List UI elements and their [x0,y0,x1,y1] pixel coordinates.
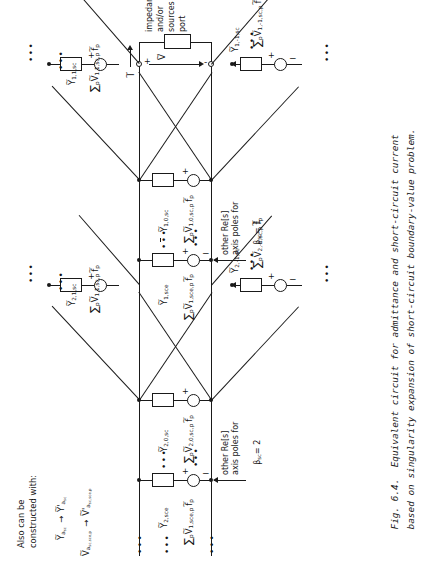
sec1-right-admittance-box [240,57,262,71]
sec1-entire-admittance-box [152,253,174,267]
port-annotation-line1: impedances [144,0,155,32]
port-current-label: ∼I [127,73,136,76]
sec2-center-node-right [209,398,213,402]
port-annotation-line4: port [177,16,188,32]
sec1-left-source-label: ∑p∼V1,1,sc,p∼fp [90,44,101,92]
port-top-wire [139,42,165,43]
sec2-center-admittance-box [152,393,174,407]
sec2-right-admittance-box [240,278,262,292]
sec1-entire-source-circle [187,254,200,267]
sec2-poles-note-line2: axis poles for [230,422,241,475]
sec1-center-rung-wire [139,180,212,181]
sec2-left-admittance-label: ∼Y2,1,sc [68,283,78,306]
sec1-center-admittance-box [152,173,174,187]
port-plus-sign: + [144,58,151,66]
sec1-poles-note-line2: axis poles for [230,202,241,255]
sec1-entire-plus: + [182,248,189,256]
bottom-ellipsis-left-bus: ••• [136,534,145,554]
sec2-left-ellipsis-2: ••• [57,271,66,291]
sec1-entire-ellipsis-src: ••• [192,227,201,247]
sec1-right-source-label: ∑p∼V1,-1,sc,p∼fp [253,0,264,47]
sec1-entire-node-left [137,258,141,262]
port-annotation-line2: and/or [155,6,166,32]
sec2-left-ellipsis: ••• [27,263,36,283]
sec1-poles-arrowhead [213,257,218,263]
sec1-center-node-left [137,178,141,182]
sec1-left-branch-node [47,62,51,66]
sec2-left-diagonal-lower [52,306,140,400]
sec2-entire-node-left [137,478,141,482]
alt-note-line2: constructed with: [28,475,39,548]
sec2-center-plus: + [182,388,189,396]
sec1-right-diagonal-lower [211,86,299,180]
sec1-center-node-right [209,178,213,182]
sec2-right-diagonal-lower [211,306,299,400]
bottom-ellipsis-right-bus: ••• [208,534,217,554]
sec1-center-source-circle [187,174,200,187]
sec1-left-ellipsis: ••• [27,42,36,62]
sec2-entire-plus: + [182,468,189,476]
sec2-left-source-label: ∑p∼V1,1,sc,p∼fp [90,265,101,313]
port-voltage-label: ∼V [158,54,167,60]
port-minus-sign: - [204,58,207,67]
port-top-wire-right [190,42,212,43]
caption-text-2: based on singularity expansion of short-… [405,129,416,530]
sec1-left-ellipsis-2: ••• [57,50,66,70]
sec2-right-source-circle [274,279,287,292]
sec2-entire-ellipsis-box: ••• [160,449,169,469]
alt-note-substitution-2: ∼Vasc,sce,p→∼V'asc,sce,p [82,488,93,556]
sec2-entire-minus: − [202,469,210,478]
sec1-entire-source-label: ∑p∼V1,sce,p∼fp [184,274,195,320]
sec2-entire-admittance-box [152,473,174,487]
sec1-right-ellipsis: ••• [323,42,332,62]
sec2-right-plus: + [268,273,275,281]
sec1-right-minus: − [289,54,297,63]
sec2-poles-arrow-line [214,480,246,481]
sec2-right-minus: − [289,275,297,284]
alt-note-line1: Also can be [16,500,27,548]
figure-caption-line2: based on singularity expansion of short-… [388,129,421,552]
sec1-left-diagonal-lower [52,86,140,180]
sec2-poles-note-line3: βsc= 2 [241,440,276,475]
sec2-right-ellipsis: ••• [323,263,332,283]
sec1-right-admittance-label: ∼Y1,-1,sc [231,27,241,52]
sec1-entire-minus: − [202,249,210,258]
port-annotation-line3: sources at [166,0,177,32]
sec1-center-plus: + [182,168,189,176]
alt-note-substitution-1: ∼Yasc→∼Y'asc [57,497,68,540]
bottom-ellipsis-mid: ••• [163,534,172,554]
sec1-left-admittance-label: ∼Y1,1,sc [68,62,78,85]
sec2-entire-source-circle [187,474,200,487]
sec2-entire-ellipsis-src: ••• [192,447,201,467]
bus-left-vertical [139,64,140,556]
sec2-center-node-left [137,398,141,402]
sec1-entire-admittance-label: ∼Y1,sce [160,284,170,305]
sec1-entire-rung-wire [139,260,212,261]
sec1-right-source-circle [274,58,287,71]
sec2-entire-rung-wire [139,480,212,481]
port-impedance-box [164,34,191,49]
sec2-right-admittance-label: ∼Y2,-1,sc [231,248,241,273]
sec2-center-rung-wire [139,400,212,401]
sec2-poles-arrowhead [213,477,218,483]
port-voltage-arrow-line [149,64,201,65]
sec2-center-source-circle [187,394,200,407]
sec1-right-plus: + [268,52,275,60]
sec2-entire-source-label: ∑p∼V1,sce,p∼fp [184,499,195,545]
sec1-entire-ellipsis-box: ••• [160,229,169,249]
sec2-entire-admittance-label: ∼Y2,sce [160,507,170,528]
sec2-right-source-label: ∑p∼V2,-1,sc,p∼fp [253,218,264,268]
sec2-right-branch-arrow [231,282,236,288]
sec1-poles-arrow-line [214,260,246,261]
sec2-left-branch-node [47,283,51,287]
sec1-right-branch-arrow [231,61,236,67]
